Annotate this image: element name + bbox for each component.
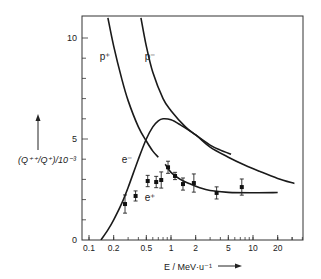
series-label: e⁻: [122, 154, 133, 165]
data-point-marker: [192, 181, 196, 185]
x-tick-label: 20: [273, 243, 283, 253]
x-tick-label: 0.1: [83, 243, 95, 253]
series-label: e⁺: [145, 192, 156, 203]
curve-2: [101, 119, 294, 240]
x-axis-label: E / MeV·u⁻¹: [164, 262, 212, 272]
x-arrow-head-icon: [235, 264, 242, 269]
chart: 0.10.20.51251020 0510 p⁺p⁻e⁻e⁺ (Q⁺⁺/Q⁺)/…: [0, 0, 321, 279]
y-tick-label: 0: [72, 235, 77, 245]
x-tick-label: 0.2: [108, 243, 120, 253]
y-arrow-head-icon: [36, 114, 41, 121]
plot-area: 0.10.20.51251020 0510 p⁺p⁻e⁻e⁺ (Q⁺⁺/Q⁺)/…: [0, 0, 321, 279]
y-axis-label-group: (Q⁺⁺/Q⁺)/10⁻³: [18, 114, 77, 165]
y-axis-label: (Q⁺⁺/Q⁺)/10⁻³: [18, 155, 77, 165]
data-points: [123, 161, 244, 213]
data-curves: [101, 18, 294, 240]
x-tick-label: 2: [193, 243, 198, 253]
series-label: p⁻: [145, 51, 156, 62]
curve-3: [165, 164, 277, 192]
y-tick-label: 10: [67, 33, 77, 43]
data-point-marker: [146, 179, 150, 183]
data-point-marker: [240, 185, 244, 189]
curve-0: [108, 18, 158, 157]
y-axis-ticks: 0510: [67, 33, 88, 245]
data-point-marker: [173, 174, 177, 178]
data-point-marker: [123, 202, 127, 206]
x-tick-label: 5: [226, 243, 231, 253]
data-point-marker: [154, 180, 158, 184]
data-point-marker: [134, 194, 138, 198]
data-point-marker: [166, 165, 170, 169]
data-point-marker: [215, 191, 219, 195]
data-point-marker: [181, 182, 185, 186]
x-tick-label: 1: [169, 243, 174, 253]
curve-1: [141, 18, 231, 154]
x-tick-label: 10: [248, 243, 258, 253]
data-point-marker: [159, 178, 163, 182]
x-axis-ticks: 0.10.20.51251020: [83, 235, 302, 253]
x-tick-label: 0.5: [140, 243, 152, 253]
y-tick-label: 5: [72, 134, 77, 144]
x-axis-label-group: E / MeV·u⁻¹: [164, 262, 242, 272]
series-label: p⁺: [100, 51, 111, 62]
